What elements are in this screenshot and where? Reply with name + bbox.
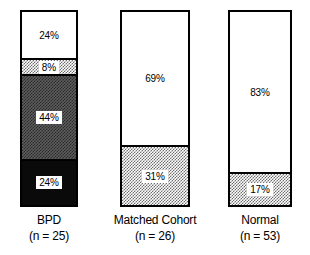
segment-value-label: 8% <box>39 61 59 74</box>
bar-segment: 24% <box>22 12 76 58</box>
segment-value-label: 24% <box>39 30 59 41</box>
segment-value-label: 17% <box>247 183 273 196</box>
bar-segment: 24% <box>22 159 76 205</box>
stacked-bar: 24%8%44%24% <box>20 10 78 207</box>
category-sample-size: (n = 26) <box>96 228 214 244</box>
bar-group-normal: 83%17%Normal(n = 53) <box>228 0 292 255</box>
bar-segment: 17% <box>230 172 290 205</box>
category-sample-size: (n = 53) <box>204 228 310 244</box>
stacked-bar: 83%17% <box>228 10 292 207</box>
bar-segment: 83% <box>230 12 290 172</box>
category-axis-label: Normal(n = 53) <box>204 212 310 244</box>
segment-value-label: 44% <box>36 111 62 124</box>
stacked-bar-chart: 24%8%44%24%BPD(n = 25)69%31%Matched Coho… <box>0 0 310 255</box>
stacked-bar: 69%31% <box>120 10 190 207</box>
bar-group-matched-cohort: 69%31%Matched Cohort(n = 26) <box>120 0 190 255</box>
segment-value-label: 83% <box>250 87 270 98</box>
segment-value-label: 69% <box>145 73 165 84</box>
bar-segment: 44% <box>22 74 76 159</box>
category-name: Matched Cohort <box>96 212 214 228</box>
segment-value-label: 24% <box>36 176 62 189</box>
bar-group-bpd: 24%8%44%24%BPD(n = 25) <box>20 0 78 255</box>
category-name: BPD <box>0 212 102 228</box>
bar-segment: 8% <box>22 58 76 73</box>
segment-value-label: 31% <box>142 170 168 183</box>
category-axis-label: BPD(n = 25) <box>0 212 102 244</box>
category-sample-size: (n = 25) <box>0 228 102 244</box>
category-name: Normal <box>204 212 310 228</box>
bar-segment: 69% <box>122 12 188 145</box>
bar-segment: 31% <box>122 145 188 205</box>
category-axis-label: Matched Cohort(n = 26) <box>96 212 214 244</box>
